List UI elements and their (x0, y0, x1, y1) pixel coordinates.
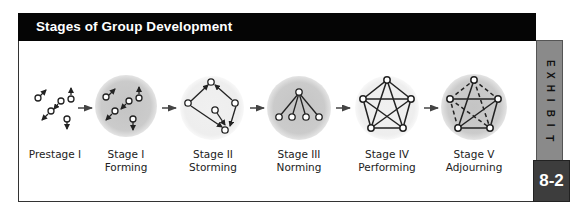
norming-circle (267, 76, 331, 140)
exhibit-letter: T (543, 135, 556, 141)
stage-label-performing: Stage IV Performing (342, 148, 432, 174)
group-development-diagram (18, 41, 536, 201)
exhibit-letter: I (543, 124, 556, 127)
stage-label-forming: Stage I Forming (81, 148, 171, 174)
title-bar: Stages of Group Development (18, 13, 536, 41)
exhibit-letter: H (543, 84, 556, 91)
exhibit-letter: B (543, 109, 556, 116)
prestage-individuals-icon (35, 88, 74, 129)
exhibit-letter: I (543, 99, 556, 102)
performing-circle (355, 76, 419, 140)
exhibit-letter: E (543, 60, 556, 67)
exhibit-title: Stages of Group Development (36, 19, 232, 34)
exhibit-number-box: 8-2 (533, 160, 570, 202)
stage-label-norming: Stage III Norming (254, 148, 344, 174)
stage-label-storming: Stage II Storming (168, 148, 258, 174)
exhibit-letter: X (543, 72, 556, 79)
forming-circle (95, 75, 157, 137)
exhibit-number: 8-2 (539, 171, 564, 191)
stage-label-adjourning: Stage V Adjourning (429, 148, 519, 174)
exhibit-tab: E X H I B I T (536, 40, 563, 161)
